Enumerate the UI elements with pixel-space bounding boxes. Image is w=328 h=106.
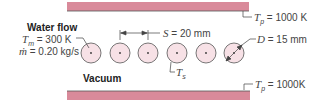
mass-flow-label: ṁ = 0.20 kg/s (19, 45, 79, 57)
water-flow-label: Water flow (27, 22, 77, 33)
tubes (81, 43, 244, 63)
spacing-label: S = 20 mm (163, 27, 210, 39)
diameter-label: D = 15 mm (257, 33, 307, 45)
top-plate-temp-label: Tp = 1000 K (254, 11, 307, 25)
top-plate (67, 2, 249, 11)
ts-label: Ts (176, 66, 186, 80)
vacuum-label: Vacuum (83, 73, 121, 84)
bottom-plate-temp-label: Tp = 1000K (255, 78, 305, 92)
bottom-plate (67, 91, 250, 100)
